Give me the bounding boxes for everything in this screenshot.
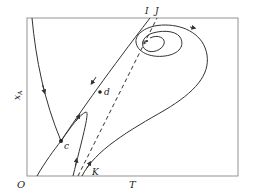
separatrix-left: [32, 18, 61, 141]
arrow-on-K: [87, 163, 90, 168]
arrow-on-I: [92, 77, 96, 83]
label-c: c: [64, 141, 69, 151]
arrow-up-lower: [76, 160, 77, 166]
curve-I: [37, 18, 150, 176]
label-x-axis: T: [129, 179, 137, 190]
label-d: d: [104, 87, 110, 97]
label-K: K: [91, 167, 100, 177]
point-d: [98, 90, 102, 94]
point-c: [59, 139, 63, 143]
label-y-axis: xA: [12, 90, 23, 100]
label-e: e: [143, 38, 147, 46]
phase-plane-diagram: c d e K I J O T xA: [0, 0, 254, 193]
label-I: I: [144, 6, 149, 16]
arrow-top-loop: [190, 27, 194, 28]
label-origin: O: [17, 179, 25, 190]
trajectory-K: [82, 25, 207, 176]
label-J: J: [153, 6, 160, 16]
svg-text:xA: xA: [12, 90, 23, 100]
